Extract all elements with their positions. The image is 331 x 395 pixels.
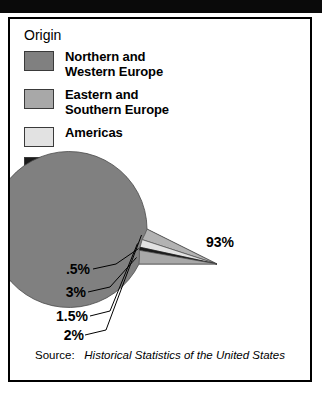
leader-line-one-point-five-percent	[90, 244, 138, 317]
source-title: Historical Statistics of the United Stat…	[84, 349, 285, 361]
scan-edge-artifact	[0, 0, 322, 13]
pie-slice-americas[interactable]	[140, 240, 217, 264]
legend: Origin Northern and Western Europe Easte…	[24, 27, 204, 216]
legend-swatch-asia	[24, 157, 54, 177]
legend-label-asia: Asia	[65, 156, 92, 171]
legend-title: Origin	[24, 27, 204, 43]
legend-label-northern-western-europe: Northern and Western Europe	[65, 50, 163, 79]
legend-item-americas[interactable]: Americas	[24, 126, 204, 147]
leader-line-two-percent	[85, 235, 142, 335]
legend-swatch-northern-western-europe	[24, 51, 54, 71]
source-label: Source:	[35, 349, 75, 361]
callout-two-percent: 2%	[22, 327, 84, 343]
legend-item-eastern-southern-europe[interactable]: Eastern and Southern Europe	[24, 88, 204, 117]
legend-label-americas: Americas	[65, 126, 123, 141]
legend-label-all-others: All others	[65, 186, 124, 201]
callout-three-percent: 3%	[24, 284, 86, 300]
slice-value-label-93: 93%	[206, 234, 234, 250]
pie-chart-figure: Origin Northern and Western Europe Easte…	[0, 0, 331, 395]
pie-slice-eastern-southern-europe[interactable]	[139, 250, 217, 264]
callout-point-five-percent: .5%	[28, 261, 90, 277]
chart-frame: Origin Northern and Western Europe Easte…	[8, 17, 312, 382]
legend-item-northern-western-europe[interactable]: Northern and Western Europe	[24, 50, 204, 79]
leader-line-three-percent	[88, 258, 137, 293]
pie-slice-all-others[interactable]	[142, 229, 217, 264]
pie-slice-asia[interactable]	[139, 247, 217, 264]
source-note: Source: Historical Statistics of the Uni…	[10, 349, 310, 361]
legend-swatch-americas	[24, 127, 54, 147]
leader-line-point-five-percent	[93, 249, 139, 269]
legend-item-asia[interactable]: Asia	[24, 156, 204, 177]
legend-swatch-all-others	[24, 187, 54, 207]
callout-one-point-five-percent: 1.5%	[20, 308, 88, 324]
legend-label-eastern-southern-europe: Eastern and Southern Europe	[65, 88, 169, 117]
legend-item-all-others[interactable]: All others	[24, 186, 204, 207]
legend-swatch-eastern-southern-europe	[24, 89, 54, 109]
